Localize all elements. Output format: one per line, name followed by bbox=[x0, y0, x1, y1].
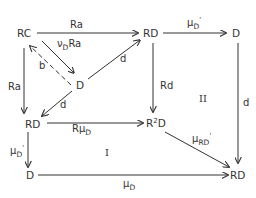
label-d-center-to-rc: b bbox=[39, 61, 45, 71]
label-d-center-to-rd-top: d bbox=[120, 54, 126, 64]
node-r2d: R2D bbox=[146, 118, 166, 129]
node-d-center: D bbox=[76, 80, 84, 91]
label-d-top-right-to-rd-bottom-right: d bbox=[243, 98, 249, 108]
label-rd-top-to-d-top-right: μD' bbox=[187, 18, 201, 28]
label-r2d-to-rd-bottom-right: μRD' bbox=[192, 134, 211, 144]
node-rd-bottom-right: RD bbox=[230, 170, 245, 181]
node-d-top-right: D bbox=[232, 28, 240, 39]
label-rc-to-rd-top: Ra bbox=[70, 20, 83, 30]
node-d-bottom-left: D bbox=[26, 170, 34, 181]
label-rd-left-to-r2d: RμD bbox=[72, 124, 91, 134]
label-d-bottom-left-to-rd-bottom-right: μD bbox=[123, 179, 135, 189]
label-rd-top-to-r2d: Rd bbox=[160, 81, 173, 91]
node-rd-top: RD bbox=[143, 28, 158, 39]
region-label-one: I bbox=[105, 148, 109, 158]
arrow-d-center-to-rd-top bbox=[88, 40, 140, 79]
commutative-diagram: RC RD D D RD R2D D RD Ra νDRa b d Ra d μ… bbox=[0, 0, 256, 198]
node-rd-left: RD bbox=[25, 119, 40, 130]
label-rc-to-d-center: νDRa bbox=[57, 39, 81, 49]
label-d-center-to-rd-left: d bbox=[60, 100, 66, 110]
node-rc: RC bbox=[17, 28, 31, 39]
region-label-two: II bbox=[199, 94, 207, 104]
diagram-arrows bbox=[0, 0, 256, 198]
label-rc-to-rd-left: Ra bbox=[8, 82, 21, 92]
label-rd-left-to-d-bottom-left: μD' bbox=[10, 146, 24, 156]
arrow-d-center-to-rd-left bbox=[42, 91, 72, 116]
